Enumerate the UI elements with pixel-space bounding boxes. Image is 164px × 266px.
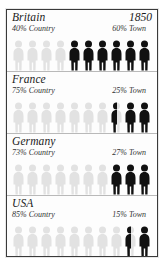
person-figure-country (68, 164, 81, 195)
person-figure-country (82, 164, 95, 195)
person-figure-town (96, 40, 109, 71)
person-figure-country (40, 40, 53, 71)
person-figure-country (54, 164, 67, 195)
person-icon (82, 226, 95, 257)
person-icon (138, 102, 151, 133)
section-header: Britain 1850 (12, 10, 152, 24)
section-germany: Germany 73% Country 27% Town (7, 134, 157, 196)
town-percentage-label: 15% Town (112, 210, 152, 220)
person-icon (12, 102, 25, 133)
person-icon (26, 226, 39, 257)
person-icon (12, 40, 25, 71)
person-figure-country (54, 226, 67, 257)
town-percentage-label: 60% Town (112, 24, 152, 34)
person-figure-town (68, 40, 81, 71)
percentage-row: 73% Country 27% Town (12, 148, 152, 160)
person-icon (40, 102, 53, 133)
person-figure-country (26, 164, 39, 195)
person-figure-country (96, 102, 109, 133)
person-figure-country (40, 102, 53, 133)
person-figure-town (110, 164, 123, 195)
person-icon (110, 226, 123, 257)
person-figure-country (12, 226, 25, 257)
person-icon (124, 40, 137, 71)
person-figure-country (96, 226, 109, 257)
person-figure-town (138, 40, 151, 71)
person-icon (82, 40, 95, 71)
person-icon (110, 40, 123, 71)
person-figure-country (12, 164, 25, 195)
person-icon (138, 226, 151, 257)
country-title: Britain (12, 11, 45, 23)
person-figure-country (82, 226, 95, 257)
country-title: France (12, 73, 46, 85)
person-figure-town (138, 164, 151, 195)
percentage-row: 40% Country 60% Town (12, 24, 152, 36)
section-usa: USA 85% Country 15% Town (7, 196, 157, 257)
town-percentage-label: 25% Town (112, 86, 152, 96)
person-figure-country (54, 40, 67, 71)
person-figure-country (54, 102, 67, 133)
person-icon (96, 164, 109, 195)
person-icon (26, 102, 39, 133)
pictogram-row (12, 37, 152, 71)
percentage-row: 75% Country 25% Town (12, 86, 152, 98)
person-icon (68, 164, 81, 195)
person-figure-country (12, 102, 25, 133)
person-figure-country (68, 102, 81, 133)
person-icon (26, 40, 39, 71)
person-icon (68, 226, 81, 257)
pictogram-row (12, 223, 152, 257)
town-percentage-label: 27% Town (112, 148, 152, 158)
person-figure-country (82, 102, 95, 133)
section-britain: Britain 1850 40% Country 60% Town (7, 10, 157, 72)
person-icon (68, 40, 81, 71)
country-percentage-label: 85% Country (12, 210, 55, 220)
year-label: 1850 (129, 11, 152, 23)
person-figure-half-country (110, 102, 123, 133)
person-figure-town (110, 40, 123, 71)
section-header: France (12, 72, 152, 86)
percentage-row: 85% Country 15% Town (12, 210, 152, 222)
person-figure-town (124, 164, 137, 195)
pictogram-row (12, 161, 152, 195)
person-icon (40, 40, 53, 71)
person-icon (12, 164, 25, 195)
person-figure-country (68, 226, 81, 257)
person-icon (96, 40, 109, 71)
person-figure-country (110, 226, 123, 257)
person-icon-half-overlay (124, 226, 131, 257)
person-figure-country (26, 102, 39, 133)
section-france: France 75% Country 25% Town (7, 72, 157, 134)
person-figure-town (124, 102, 137, 133)
person-figure-half-country (124, 226, 137, 257)
person-icon (54, 164, 67, 195)
country-title: USA (12, 197, 33, 209)
person-figure-country (26, 40, 39, 71)
person-figure-town (82, 40, 95, 71)
person-icon (138, 40, 151, 71)
country-percentage-label: 75% Country (12, 86, 55, 96)
person-icon (82, 102, 95, 133)
person-icon (138, 164, 151, 195)
person-figure-town (124, 40, 137, 71)
infographic-frame: Britain 1850 40% Country 60% Town France… (6, 9, 158, 257)
person-icon (26, 164, 39, 195)
section-header: Germany (12, 134, 152, 148)
person-icon (54, 40, 67, 71)
person-icon (96, 226, 109, 257)
person-figure-country (96, 164, 109, 195)
person-icon (40, 164, 53, 195)
person-icon (54, 102, 67, 133)
section-header: USA (12, 196, 152, 210)
person-figure-country (26, 226, 39, 257)
person-figure-town (138, 226, 151, 257)
person-icon (54, 226, 67, 257)
person-icon (82, 164, 95, 195)
person-figure-country (40, 164, 53, 195)
person-figure-town (138, 102, 151, 133)
person-icon (110, 164, 123, 195)
person-icon (40, 226, 53, 257)
person-icon (124, 164, 137, 195)
person-icon (12, 226, 25, 257)
